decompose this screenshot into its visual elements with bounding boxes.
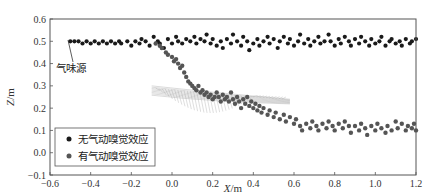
y-tick-label: 0.2 [34, 103, 47, 114]
data-point [265, 113, 269, 117]
data-point [239, 106, 243, 110]
data-point [213, 95, 217, 99]
y-tick-label: 0.1 [34, 125, 47, 136]
data-point [176, 61, 180, 65]
data-point [282, 35, 286, 39]
data-point [204, 90, 208, 94]
data-point [227, 99, 231, 103]
data-point [278, 39, 282, 43]
data-point [383, 44, 387, 48]
data-point [76, 39, 80, 43]
data-point [217, 95, 221, 99]
data-point [160, 46, 164, 50]
data-point [320, 122, 324, 126]
data-point [347, 124, 351, 128]
data-point [198, 37, 202, 41]
data-point [379, 35, 383, 39]
data-point [349, 44, 353, 48]
data-point [298, 124, 302, 128]
data-point [298, 33, 302, 37]
data-point [202, 39, 206, 43]
data-point [339, 41, 343, 45]
x-tick-label: 0.8 [328, 178, 341, 189]
data-point [349, 131, 353, 135]
data-point [369, 124, 373, 128]
data-point [312, 39, 316, 43]
data-point [184, 37, 188, 41]
data-point [166, 53, 170, 57]
data-point [377, 39, 381, 43]
data-point [194, 88, 198, 92]
data-point [267, 108, 271, 112]
data-points [68, 33, 418, 138]
data-point [353, 37, 357, 41]
data-point [125, 39, 129, 43]
legend-label-no-effect: 无气动嗅觉效应 [78, 133, 149, 145]
data-point [276, 46, 280, 50]
data-point [304, 122, 308, 126]
data-point [192, 35, 196, 39]
data-point [292, 44, 296, 48]
data-point [278, 117, 282, 121]
y-axis-label: Z/m [4, 88, 16, 106]
data-point [257, 44, 261, 48]
data-point [316, 35, 320, 39]
data-point [357, 128, 361, 132]
data-point [306, 37, 310, 41]
data-point [119, 41, 123, 45]
data-point [251, 41, 255, 45]
legend-label-with-effect: 有气动嗅觉效应 [78, 150, 149, 162]
data-point [359, 35, 363, 39]
data-point [367, 44, 371, 48]
data-point [245, 95, 249, 99]
data-point [398, 39, 402, 43]
data-point [410, 126, 414, 130]
data-point [353, 124, 357, 128]
data-point [272, 37, 276, 41]
data-point [288, 115, 292, 119]
data-point [327, 33, 331, 37]
x-tick-label: 0.4 [247, 178, 260, 189]
data-point [211, 37, 215, 41]
data-point [72, 39, 76, 43]
data-point [249, 99, 253, 103]
data-point [337, 122, 341, 126]
data-point [166, 37, 170, 41]
data-point [379, 126, 383, 130]
data-point [389, 128, 393, 132]
data-point [80, 41, 84, 45]
y-tick-label: 0.0 [34, 147, 47, 158]
data-point [257, 104, 261, 108]
data-point [272, 115, 276, 119]
data-point [406, 124, 410, 128]
data-point [209, 41, 213, 45]
data-point [363, 39, 367, 43]
data-point [229, 90, 233, 94]
x-tick-label: 1.0 [369, 178, 382, 189]
data-point [225, 37, 229, 41]
y-tick-label: 0.5 [34, 36, 47, 47]
x-tick-label: 0.2 [206, 178, 219, 189]
data-point [390, 37, 394, 41]
data-point [268, 41, 272, 45]
data-point [404, 37, 408, 41]
data-point [286, 41, 290, 45]
data-point [182, 70, 186, 74]
data-point [176, 39, 180, 43]
data-point [318, 41, 322, 45]
data-point [359, 122, 363, 126]
data-point [363, 126, 367, 130]
data-point [324, 126, 328, 130]
y-tick-label: 0.6 [34, 14, 47, 25]
data-point [383, 131, 387, 135]
data-point [266, 35, 270, 39]
y-tick-label: 0.3 [34, 80, 47, 91]
data-point [219, 99, 223, 103]
data-point [322, 39, 326, 43]
data-point [337, 37, 341, 41]
data-point [170, 55, 174, 59]
data-point [308, 126, 312, 130]
data-point [194, 41, 198, 45]
data-point [229, 41, 233, 45]
data-point [137, 41, 141, 45]
